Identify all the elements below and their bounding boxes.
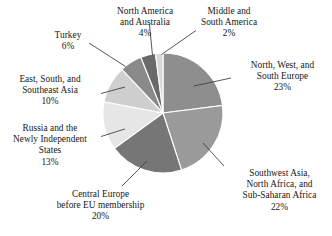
pie-label-russia-nis-line3: States — [0, 145, 100, 156]
pie-label-russia-nis-line2: Newly Independent — [0, 134, 100, 145]
pie-label-middle-south-america-value: 2% — [177, 28, 281, 39]
pie-label-middle-south-america: Middle and South America 2% — [177, 6, 281, 40]
pie-label-central-europe-line2: before EU membership — [28, 200, 173, 211]
pie-label-central-europe: Central Europe before EU membership 20% — [28, 189, 173, 223]
pie-label-southwest-asia-north-africa-sub-saharan-africa: Southwest Asia, North Africa, and Sub-Sa… — [227, 168, 332, 213]
pie-label-turkey-value: 6% — [44, 41, 92, 52]
pie-label-north-west-south-europe-line1: North, West, and — [233, 60, 332, 71]
pie-label-russia-nis-value: 13% — [0, 157, 100, 168]
pie-chart-figure: North America and Australia 4% Middle an… — [0, 0, 332, 236]
pie-label-southwest-asia-africa-line2: North Africa, and — [227, 179, 332, 190]
pie-label-middle-south-america-line2: South America — [177, 17, 281, 28]
pie-label-east-south-southeast-asia-value: 10% — [2, 96, 98, 107]
pie-slice-north-west-south-europe[interactable] — [163, 53, 223, 113]
pie-slices — [103, 53, 223, 173]
pie-label-central-europe-line1: Central Europe — [28, 189, 173, 200]
pie-label-turkey: Turkey 6% — [44, 30, 92, 52]
pie-label-east-south-southeast-asia: East, South, and Southeast Asia 10% — [2, 74, 98, 108]
pie-label-east-south-southeast-asia-line2: Southeast Asia — [2, 85, 98, 96]
pie-label-east-south-southeast-asia-line1: East, South, and — [2, 74, 98, 85]
pie-label-turkey-line1: Turkey — [44, 30, 92, 41]
pie-label-middle-south-america-line1: Middle and — [177, 6, 281, 17]
pie-label-north-west-south-europe-line2: South Europe — [233, 71, 332, 82]
pie-label-central-europe-value: 20% — [28, 211, 173, 222]
pie-label-russia-nis-line1: Russia and the — [0, 123, 100, 134]
leader-line-turkey — [89, 43, 126, 67]
pie-label-southwest-asia-africa-line1: Southwest Asia, — [227, 168, 332, 179]
pie-label-southwest-asia-africa-line3: Sub-Saharan Africa — [227, 190, 332, 201]
pie-label-north-west-south-europe-value: 23% — [233, 82, 332, 93]
pie-label-russia-newly-independent-states: Russia and the Newly Independent States … — [0, 123, 100, 168]
pie-label-north-west-south-europe: North, West, and South Europe 23% — [233, 60, 332, 94]
pie-label-southwest-asia-africa-value: 22% — [227, 202, 332, 213]
